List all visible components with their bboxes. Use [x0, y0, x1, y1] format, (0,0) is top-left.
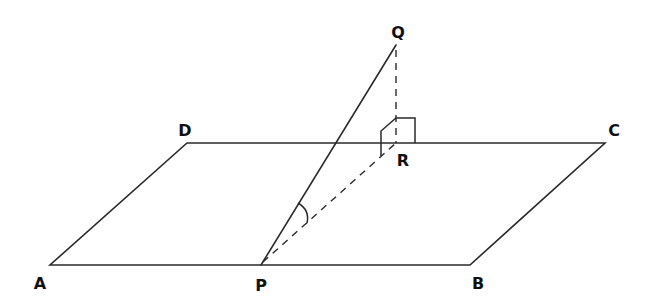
label-q: Q [391, 23, 405, 42]
label-a: A [34, 274, 47, 293]
label-r: R [397, 151, 409, 170]
geometry-diagram: A B C D P Q R [0, 0, 656, 303]
label-p: P [255, 276, 267, 295]
label-d: D [178, 121, 191, 140]
angle-arc-p [298, 203, 308, 223]
label-b: B [472, 274, 484, 293]
plane-abcd [50, 143, 605, 265]
segment-pr-dashed [263, 143, 396, 262]
segment-pq [261, 45, 396, 265]
label-c: C [608, 121, 620, 140]
